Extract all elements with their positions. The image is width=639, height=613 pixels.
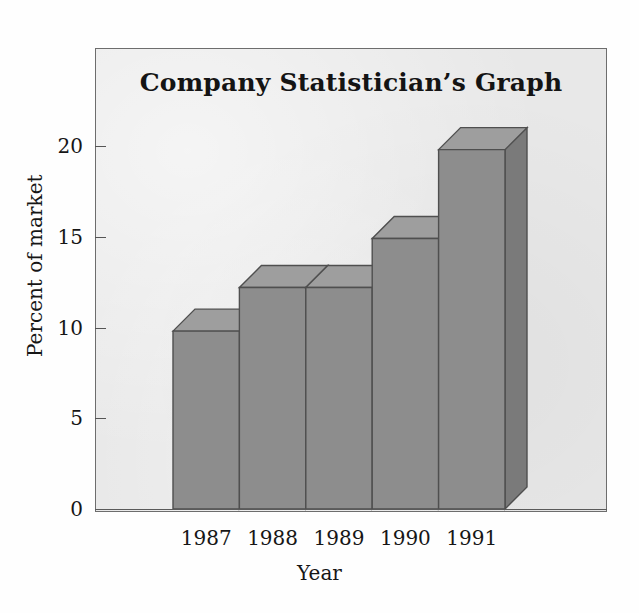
y-tick-label: 0 xyxy=(70,497,83,521)
y-tick-label: 20 xyxy=(58,134,83,158)
y-tick-label: 15 xyxy=(58,225,83,249)
y-axis-label: Percent of market xyxy=(23,197,47,357)
chart-title: Company Statistician’s Graph xyxy=(95,68,607,97)
x-axis-label: Year xyxy=(0,561,639,585)
y-tick-label: 5 xyxy=(70,406,83,430)
chart-figure: Company Statistician’s Graph Percent of … xyxy=(0,0,639,613)
y-tick-mark xyxy=(95,328,106,329)
y-tick-mark xyxy=(95,237,106,238)
y-tick-label: 10 xyxy=(58,316,83,340)
x-tick-label: 1991 xyxy=(427,526,517,550)
y-tick-mark xyxy=(95,418,106,419)
plot-area xyxy=(95,48,607,512)
axis-baseline xyxy=(95,509,607,510)
y-tick-mark xyxy=(95,146,106,147)
